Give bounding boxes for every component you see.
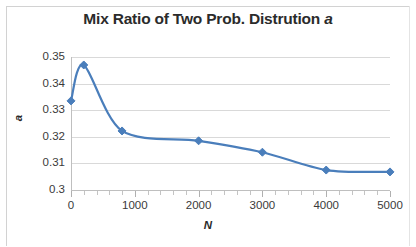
x-axis-tick-label: 2000: [172, 199, 226, 211]
x-axis-minor-tick: [97, 191, 98, 195]
x-axis-major-tick: [199, 191, 200, 197]
y-axis-tick-label: 0.34: [25, 78, 65, 89]
y-axis-tick-label: 0.32: [25, 131, 65, 142]
x-axis-minor-tick: [377, 191, 378, 195]
x-axis-minor-tick: [250, 191, 251, 195]
y-axis-tick-label: 0.3: [25, 184, 65, 195]
x-axis-major-tick: [326, 191, 327, 197]
x-axis-minor-tick: [186, 191, 187, 195]
x-axis-line: [71, 190, 390, 191]
x-axis-minor-tick: [224, 191, 225, 195]
x-axis-minor-tick: [148, 191, 149, 195]
x-axis-tick-label: 1000: [108, 199, 162, 211]
x-axis-major-tick: [262, 191, 263, 197]
data-point-marker: [195, 137, 203, 145]
data-point-marker: [258, 148, 266, 156]
data-point-marker: [386, 168, 394, 176]
x-axis-minor-tick: [275, 191, 276, 195]
y-axis-title: a: [12, 115, 24, 121]
data-point-marker: [322, 166, 330, 174]
x-axis-minor-tick: [109, 191, 110, 195]
x-axis-minor-tick: [313, 191, 314, 195]
x-axis-tick-label: 5000: [363, 199, 416, 211]
x-axis-minor-tick: [301, 191, 302, 195]
chart-title-main: Mix Ratio of Two Prob. Distrution: [83, 10, 324, 27]
x-axis-tick-labels: 010002000300040005000: [0, 199, 416, 215]
series-line-path: [71, 65, 390, 172]
x-axis-minor-tick: [173, 191, 174, 195]
y-axis-tick-label: 0.31: [25, 157, 65, 168]
x-axis-minor-tick: [160, 191, 161, 195]
x-axis-major-tick: [135, 191, 136, 197]
chart-frame-top-border: [6, 6, 410, 7]
x-axis-title: N: [0, 219, 416, 231]
chart-title-italic-symbol: a: [324, 10, 332, 27]
chart-screenshot: Mix Ratio of Two Prob. Distrution a 0.35…: [0, 0, 416, 247]
x-axis-tick-label: 4000: [299, 199, 353, 211]
x-axis-minor-tick: [84, 191, 85, 195]
plot-area: [71, 57, 390, 190]
x-axis-minor-tick: [352, 191, 353, 195]
x-axis-major-tick: [71, 191, 72, 197]
y-axis-tick-label: 0.35: [25, 51, 65, 62]
data-point-marker: [67, 97, 75, 105]
x-axis-tick-label: 0: [44, 199, 98, 211]
x-axis-minor-tick: [288, 191, 289, 195]
x-axis-minor-tick: [237, 191, 238, 195]
x-axis-minor-tick: [211, 191, 212, 195]
data-series-line: [71, 57, 390, 190]
x-axis-minor-tick: [364, 191, 365, 195]
y-axis-tick-label: 0.33: [25, 104, 65, 115]
x-axis-minor-tick: [339, 191, 340, 195]
x-axis-major-tick: [390, 191, 391, 197]
x-axis-minor-tick: [122, 191, 123, 195]
x-axis-tick-label: 3000: [235, 199, 289, 211]
